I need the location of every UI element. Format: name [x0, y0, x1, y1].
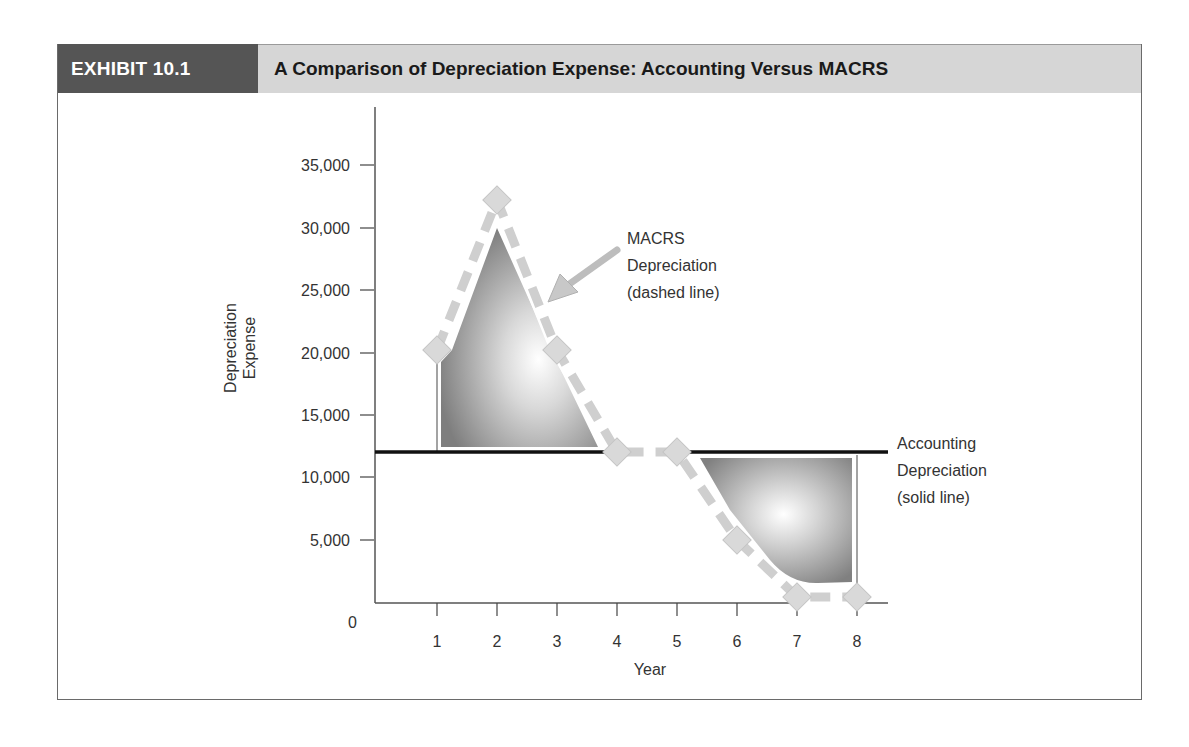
y-tick-label: 20,000	[301, 345, 350, 362]
accounting-label-line2: Depreciation	[897, 462, 987, 479]
y-axis-title-line2: Expense	[241, 317, 258, 379]
y-tick-label: 5,000	[310, 532, 350, 549]
macrs-label-line3: (dashed line)	[627, 284, 720, 301]
y-tick-label: 0	[348, 614, 357, 631]
macrs-arrow-icon	[548, 250, 617, 302]
x-tick-label: 3	[553, 633, 562, 650]
accounting-label-line3: (solid line)	[897, 489, 970, 506]
y-ticks	[360, 165, 374, 540]
y-tick-label: 15,000	[301, 407, 350, 424]
x-tick-label: 5	[673, 633, 682, 650]
y-tick-label: 25,000	[301, 282, 350, 299]
x-tick-label: 8	[853, 633, 862, 650]
x-axis-title: Year	[634, 661, 667, 678]
y-tick-label: 35,000	[301, 157, 350, 174]
x-tick-label: 4	[613, 633, 622, 650]
macrs-label-line1: MACRS	[627, 230, 685, 247]
depreciation-chart: 35,000 30,000 25,000 20,000 15,000 10,00…	[0, 0, 1189, 747]
y-axis-title-line1: Depreciation	[222, 303, 239, 393]
y-tick-label: 30,000	[301, 220, 350, 237]
x-tick-label: 1	[433, 633, 442, 650]
x-tick-label: 7	[793, 633, 802, 650]
x-tick-label: 6	[733, 633, 742, 650]
y-tick-label: 10,000	[301, 469, 350, 486]
macrs-label-line2: Depreciation	[627, 257, 717, 274]
accounting-label-line1: Accounting	[897, 435, 976, 452]
x-tick-label: 2	[493, 633, 502, 650]
